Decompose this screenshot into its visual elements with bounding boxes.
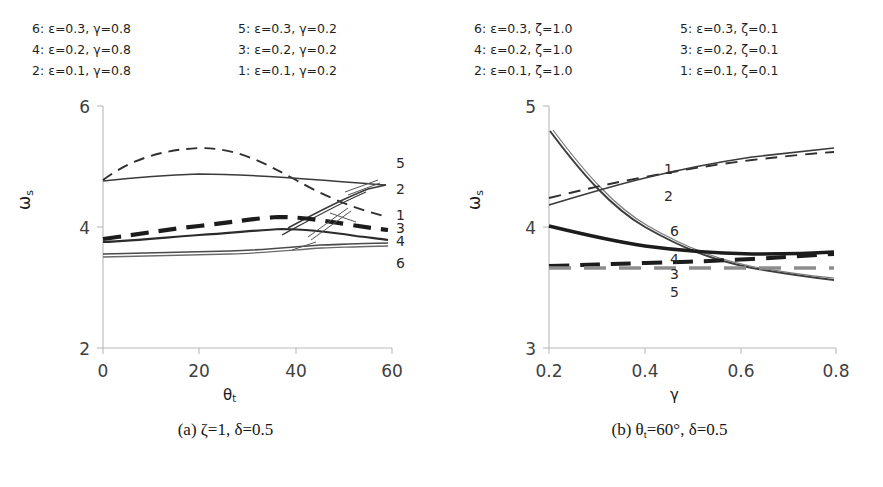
- x-tick-label: 0: [98, 361, 109, 381]
- legend-entry: 1: ε=0.1, γ=0.2: [238, 60, 337, 81]
- y-axis-symbol: ω: [14, 196, 34, 210]
- panel-b: 6: ε=0.3, ζ=1.0 4: ε=0.2, ζ=1.0 2: ε=0.1…: [442, 0, 883, 487]
- x-axis-title-a: θt: [0, 386, 441, 404]
- legend-entry: 3: ε=0.2, γ=0.2: [238, 39, 337, 60]
- plot-svg-b: 5 4 3 0.2 0.4 0.6 0.8: [442, 96, 883, 386]
- y-tick-label: 2: [79, 339, 90, 359]
- plot-svg-a: 6 4 2 0 20 40 60: [0, 96, 441, 386]
- caption-b: (b) θt=60°, δ=0.5: [442, 420, 883, 440]
- legend-entry: 6: ε=0.3, γ=0.8: [32, 18, 131, 39]
- legend-column-right: 5: ε=0.3, γ=0.2 3: ε=0.2, γ=0.2 1: ε=0.1…: [238, 18, 337, 81]
- legend-entry: 6: ε=0.3, ζ=1.0: [474, 18, 572, 39]
- caption-prefix: (a): [178, 420, 201, 439]
- curve-label-5: 5: [396, 155, 405, 171]
- curve-label-6: 6: [396, 255, 405, 271]
- y-axis-title-a: ωs: [14, 190, 36, 210]
- legend-entry: 4: ε=0.2, ζ=1.0: [474, 39, 572, 60]
- plot-area-a: 6 4 2 0 20 40 60: [0, 96, 441, 386]
- caption-symbol: θ: [636, 420, 644, 439]
- legend-entry: 5: ε=0.3, γ=0.2: [238, 18, 337, 39]
- curve-3: [103, 217, 388, 239]
- y-tick-label: 4: [79, 218, 90, 238]
- y-axis-symbol: ω: [464, 196, 484, 210]
- x-tick-label: 0.2: [535, 361, 562, 381]
- curve-label-5: 5: [670, 284, 679, 300]
- curve-1: [549, 152, 834, 198]
- x-tick-label: 0.4: [631, 361, 658, 381]
- caption-a: (a) ζ=1, δ=0.5: [0, 420, 441, 440]
- y-axis-title-b: ωs: [464, 190, 486, 210]
- curve-label-2: 2: [396, 181, 405, 197]
- x-axis-symbol: γ: [670, 386, 679, 404]
- legend-entry: 3: ε=0.2, ζ=0.1: [680, 39, 778, 60]
- y-tick-label: 4: [525, 218, 536, 238]
- x-tick-label: 20: [188, 361, 210, 381]
- legend-entry: 4: ε=0.2, γ=0.8: [32, 39, 131, 60]
- leader-line: [311, 211, 351, 240]
- y-tick-label: 3: [525, 339, 536, 359]
- curve-6-trace: [103, 246, 388, 257]
- y-tick-label: 5: [525, 97, 536, 117]
- legend-panel-a: 6: ε=0.3, γ=0.8 4: ε=0.2, γ=0.8 2: ε=0.1…: [0, 18, 441, 96]
- panel-a: 6: ε=0.3, γ=0.8 4: ε=0.2, γ=0.8 2: ε=0.1…: [0, 0, 441, 487]
- caption-body: ζ=1, δ=0.5: [201, 420, 273, 439]
- x-tick-label: 0.6: [727, 361, 754, 381]
- x-tick-label: 40: [285, 361, 307, 381]
- legend-panel-b: 6: ε=0.3, ζ=1.0 4: ε=0.2, ζ=1.0 2: ε=0.1…: [442, 18, 883, 96]
- legend-entry: 2: ε=0.1, ζ=1.0: [474, 60, 572, 81]
- x-tick-label: 60: [381, 361, 403, 381]
- caption-body: =60°, δ=0.5: [647, 420, 728, 439]
- curve-label-1: 1: [664, 161, 673, 177]
- x-axis-subscript: t: [232, 393, 236, 404]
- curve-3: [549, 254, 834, 266]
- y-axis-subscript: s: [23, 190, 36, 196]
- x-axis-title-b: γ: [442, 386, 883, 404]
- legend-column-right: 5: ε=0.3, ζ=0.1 3: ε=0.2, ζ=0.1 1: ε=0.1…: [680, 18, 778, 81]
- legend-column-left: 6: ε=0.3, ζ=1.0 4: ε=0.2, ζ=1.0 2: ε=0.1…: [474, 18, 572, 81]
- curve-label-3: 3: [670, 266, 679, 282]
- curve-4: [549, 226, 834, 254]
- curve-label-4: 4: [396, 233, 405, 249]
- curve-label-4: 4: [670, 251, 679, 267]
- y-axis-subscript: s: [473, 190, 486, 196]
- x-tick-label: 0.8: [822, 361, 849, 381]
- y-tick-label: 6: [79, 97, 90, 117]
- legend-entry: 5: ε=0.3, ζ=0.1: [680, 18, 778, 39]
- legend-column-left: 6: ε=0.3, γ=0.8 4: ε=0.2, γ=0.8 2: ε=0.1…: [32, 18, 131, 81]
- curve-label-6: 6: [670, 223, 679, 239]
- figure-container: 6: ε=0.3, γ=0.8 4: ε=0.2, γ=0.8 2: ε=0.1…: [0, 0, 883, 487]
- caption-prefix: (b): [611, 420, 635, 439]
- plot-area-b: 5 4 3 0.2 0.4 0.6 0.8: [442, 96, 883, 386]
- x-axis-symbol: θ: [223, 386, 232, 404]
- legend-entry: 2: ε=0.1, γ=0.8: [32, 60, 131, 81]
- curve-2: [103, 174, 386, 185]
- curve-6: [103, 243, 388, 254]
- curve-label-2: 2: [664, 188, 673, 204]
- legend-entry: 1: ε=0.1, ζ=0.1: [680, 60, 778, 81]
